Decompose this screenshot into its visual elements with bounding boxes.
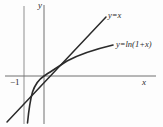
curve-label-y-equals-ln: y=ln(1+x)	[116, 40, 152, 49]
x-tick-label-negative-one: −1	[10, 78, 20, 87]
curve-y-equals-ln-one-plus-x	[28, 45, 114, 123]
graph-plot-area	[0, 0, 163, 127]
line-y-equals-x	[7, 17, 106, 122]
figure-container: y x −1 y=x y=ln(1+x)	[0, 0, 163, 127]
x-axis-label: x	[142, 78, 146, 87]
line-label-y-equals-x: y=x	[108, 11, 121, 20]
y-axis-label: y	[38, 1, 42, 10]
